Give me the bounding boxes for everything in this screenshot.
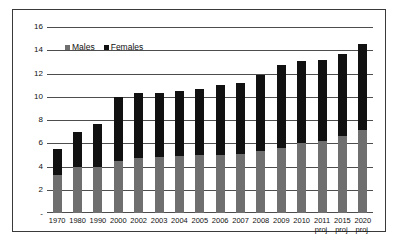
bar-segment-males: [114, 161, 123, 213]
y-tick-label: 8: [39, 116, 43, 124]
bar-slot: [47, 27, 67, 213]
stacked-bar: [297, 61, 306, 213]
bar-segment-females: [175, 91, 184, 156]
stacked-bar: [155, 93, 164, 213]
bar-segment-males: [93, 167, 102, 214]
x-tick-label: 2011proj.: [312, 216, 332, 234]
stacked-bar: [53, 149, 62, 213]
bar-segment-males: [338, 136, 347, 213]
legend-swatch-females-icon: [104, 45, 109, 50]
bar-slot: [190, 27, 210, 213]
bar-segment-males: [256, 151, 265, 213]
bar-slot: [210, 27, 230, 213]
bar-slot: [169, 27, 189, 213]
bar-slot: [129, 27, 149, 213]
bar-slot: [251, 27, 271, 213]
stacked-bar: [216, 85, 225, 213]
bar-slot: [67, 27, 87, 213]
y-tick-label: -: [40, 210, 43, 218]
bar-segment-females: [93, 124, 102, 167]
bar-segment-females: [318, 60, 327, 141]
x-tick-label: 2004: [169, 216, 189, 234]
bar-slot: [108, 27, 128, 213]
plot-area: -246810121416 19701980199020002002200320…: [47, 27, 373, 223]
y-tick-label: 4: [39, 163, 43, 171]
legend-label-females: Females: [111, 43, 144, 52]
stacked-bar: [114, 97, 123, 213]
x-tick-label: 2015proj.: [332, 216, 352, 234]
chart-figure: -246810121416 19701980199020002002200320…: [12, 9, 386, 232]
legend-item-males: Males: [65, 43, 95, 52]
legend-swatch-males-icon: [65, 45, 70, 50]
x-tick-label: 2005: [190, 216, 210, 234]
x-tick-label: 1990: [88, 216, 108, 234]
bar-slot: [149, 27, 169, 213]
y-tick-label: 12: [34, 70, 43, 78]
bar-segment-females: [216, 85, 225, 155]
bar-segment-males: [358, 130, 367, 213]
bar-segment-females: [256, 75, 265, 152]
stacked-bar: [236, 83, 245, 213]
legend-item-females: Females: [104, 43, 144, 52]
x-tick-label: 1980: [67, 216, 87, 234]
bar-slot: [271, 27, 291, 213]
bar-segment-males: [216, 155, 225, 213]
bar-segment-males: [318, 141, 327, 213]
bar-slot: [230, 27, 250, 213]
bar-segment-females: [114, 97, 123, 161]
y-tick-label: 16: [34, 23, 43, 31]
stacked-bar: [93, 124, 102, 214]
bar-slot: [332, 27, 352, 213]
bar-slot: [312, 27, 332, 213]
bar-slot: [353, 27, 373, 213]
bar-series-group: [47, 27, 373, 213]
bar-slot: [292, 27, 312, 213]
x-axis-labels: 1970198019902000200220032004200520062007…: [47, 216, 373, 234]
bar-segment-males: [277, 148, 286, 213]
x-tick-label: 2006: [210, 216, 230, 234]
bar-segment-males: [134, 158, 143, 213]
x-tick-label: 2000: [108, 216, 128, 234]
bar-segment-females: [155, 93, 164, 157]
x-tick-projection-note: proj.: [353, 225, 373, 234]
x-tick-label: 2009: [271, 216, 291, 234]
bar-segment-females: [53, 149, 62, 175]
bar-segment-males: [297, 143, 306, 213]
bar-segment-females: [236, 83, 245, 154]
bar-segment-females: [195, 89, 204, 155]
x-tick-label: 2010: [292, 216, 312, 234]
x-tick-label: 2002: [129, 216, 149, 234]
stacked-bar: [195, 89, 204, 213]
bar-segment-males: [236, 154, 245, 213]
bar-segment-males: [73, 167, 82, 214]
bar-segment-females: [73, 132, 82, 167]
bar-slot: [88, 27, 108, 213]
bar-segment-females: [297, 61, 306, 144]
bar-segment-females: [338, 54, 347, 137]
x-tick-projection-note: proj.: [312, 225, 332, 234]
bar-segment-males: [155, 157, 164, 213]
stacked-bar: [73, 132, 82, 213]
x-tick-label: 1970: [47, 216, 67, 234]
bar-segment-males: [53, 175, 62, 213]
stacked-bar: [318, 60, 327, 213]
y-tick-label: 6: [39, 139, 43, 147]
x-tick-label: 2007: [230, 216, 250, 234]
legend-label-males: Males: [72, 43, 95, 52]
stacked-bar: [338, 54, 347, 213]
x-tick-projection-note: proj.: [332, 225, 352, 234]
y-tick-label: 14: [34, 46, 43, 54]
stacked-bar: [134, 93, 143, 213]
bar-segment-females: [358, 44, 367, 130]
y-tick-label: 10: [34, 93, 43, 101]
chart-legend: Males Females: [65, 43, 143, 52]
x-tick-label: 2020proj.: [353, 216, 373, 234]
stacked-bar: [277, 65, 286, 213]
y-tick-label: 2: [39, 186, 43, 194]
stacked-bar: [175, 91, 184, 213]
x-tick-label: 2008: [251, 216, 271, 234]
bar-segment-males: [195, 155, 204, 213]
x-tick-label: 2003: [149, 216, 169, 234]
bar-segment-females: [277, 65, 286, 148]
stacked-bar: [358, 44, 367, 213]
